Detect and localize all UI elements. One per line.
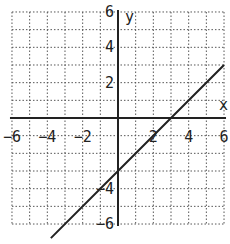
y-tick-label: −6 [96,215,114,233]
x-tick-label: 4 [184,128,193,146]
x-tick-label: −2 [74,128,92,146]
x-tick-label: 6 [220,128,229,146]
x-axis-label: x [219,96,228,114]
x-tick-label: −4 [38,128,56,146]
y-axis-label: y [125,8,134,26]
data-series [51,65,224,238]
y-tick-label: 6 [105,3,114,21]
line-graph: −6−4−2246642−4−6 x y [0,0,230,244]
y-tick-label: 4 [105,38,114,56]
axes [10,10,226,226]
series-line [51,65,224,238]
y-tick-label: 2 [105,74,114,92]
x-tick-label: −6 [3,128,21,146]
y-tick-label: −4 [96,180,114,198]
